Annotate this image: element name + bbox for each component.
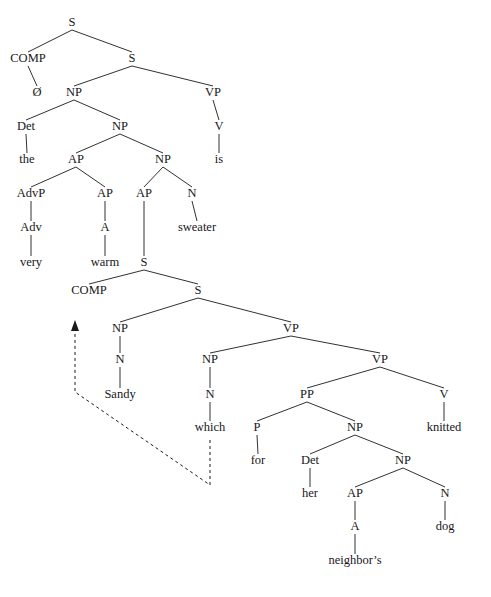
tree-edge	[307, 402, 355, 421]
category-node-n-sandy: N	[115, 352, 124, 366]
category-node-det-her: Det	[301, 453, 320, 467]
tree-edge	[257, 435, 258, 454]
category-node-vp-matrix: VP	[205, 85, 221, 99]
category-node-n-sweater: N	[187, 186, 196, 200]
tree-edge	[403, 468, 445, 487]
category-node-n-dog: N	[440, 486, 449, 500]
tree-edge	[76, 134, 120, 153]
node-label-layer: SCOMPSØNPVPDetNPVtheAPNPisAdvPAPAPNAdvAs…	[10, 15, 462, 567]
category-node-ap-3: AP	[136, 186, 152, 200]
tree-edge	[89, 270, 144, 284]
tree-edge	[291, 336, 380, 353]
syntax-tree-figure: SCOMPSØNPVPDetNPVtheAPNPisAdvPAPAPNAdvAs…	[0, 0, 491, 597]
wh-movement-dashed-line	[75, 330, 210, 485]
leaf-node-dog: dog	[436, 519, 456, 533]
tree-edge	[144, 270, 198, 284]
tree-edge	[28, 66, 37, 86]
tree-edge	[74, 100, 120, 120]
category-node-adv: Adv	[20, 220, 42, 234]
category-node-s-rel-inner: S	[195, 283, 202, 297]
tree-canvas: SCOMPSØNPVPDetNPVtheAPNPisAdvPAPAPNAdvAs…	[0, 0, 491, 597]
category-node-a-neighbors: A	[350, 519, 359, 533]
category-node-s-rel: S	[141, 255, 148, 269]
leaf-node-is: is	[215, 152, 223, 166]
tree-edge	[192, 201, 197, 221]
category-node-np-inner: NP	[112, 119, 128, 133]
category-node-v-knitted: V	[439, 387, 448, 401]
tree-edge	[28, 30, 72, 52]
category-node-np-4: NP	[395, 453, 411, 467]
category-node-s-top: S	[69, 15, 76, 29]
leaf-node-the: the	[19, 152, 35, 166]
category-node-np-3: NP	[347, 420, 363, 434]
category-node-vp-rel-inner: VP	[372, 352, 388, 366]
tree-edge	[31, 167, 76, 187]
tree-edge	[213, 100, 219, 120]
tree-edge	[307, 367, 380, 388]
tree-edge	[355, 435, 403, 454]
wh-movement-arrowhead	[71, 320, 79, 331]
tree-edge	[310, 435, 355, 454]
tree-edge	[257, 402, 307, 421]
tree-edge	[120, 298, 198, 322]
leaf-node-neighbors: neighbor’s	[328, 553, 381, 567]
category-node-comp-rel: COMP	[71, 283, 106, 297]
category-node-v-is: V	[214, 119, 223, 133]
tree-edge	[26, 100, 74, 120]
tree-edge	[144, 167, 163, 187]
leaf-node-very: very	[20, 255, 43, 269]
leaf-node-for: for	[251, 453, 266, 467]
leaf-node-which: which	[195, 420, 226, 434]
category-node-s-matrix: S	[129, 51, 136, 65]
category-node-ap-2: AP	[97, 186, 113, 200]
movement-trace-layer	[71, 320, 210, 485]
category-node-comp-top: COMP	[10, 51, 45, 65]
tree-edge	[74, 66, 132, 86]
tree-edge	[198, 298, 291, 322]
category-node-p-for: P	[254, 420, 261, 434]
category-node-vp-rel: VP	[283, 321, 299, 335]
category-node-np-sandy: NP	[112, 321, 128, 335]
leaf-node-knitted: knitted	[427, 420, 462, 434]
category-node-advp: AdvP	[17, 186, 46, 200]
category-node-det-the: Det	[17, 119, 36, 133]
tree-edge	[72, 30, 132, 52]
category-node-pp: PP	[300, 387, 314, 401]
tree-edge	[76, 167, 105, 187]
leaf-node-warm: warm	[91, 255, 120, 269]
category-node-np-which: NP	[202, 352, 218, 366]
tree-edge	[26, 134, 27, 153]
tree-edge	[120, 134, 163, 153]
leaf-node-sweater: sweater	[178, 220, 217, 234]
leaf-node-sandy: Sandy	[104, 387, 136, 401]
category-node-np-2: NP	[155, 152, 171, 166]
leaf-node-her: her	[302, 486, 319, 500]
tree-edge	[380, 367, 444, 388]
leaf-node-comp-top-null: Ø	[32, 85, 41, 99]
tree-edge	[132, 66, 213, 86]
tree-edge	[210, 336, 291, 353]
category-node-n-which: N	[205, 387, 214, 401]
category-node-np-subj: NP	[66, 85, 82, 99]
category-node-a-warm: A	[100, 220, 109, 234]
category-node-ap-4: AP	[347, 486, 363, 500]
tree-edge	[163, 167, 192, 187]
category-node-ap-1: AP	[68, 152, 84, 166]
tree-edge	[355, 468, 403, 487]
